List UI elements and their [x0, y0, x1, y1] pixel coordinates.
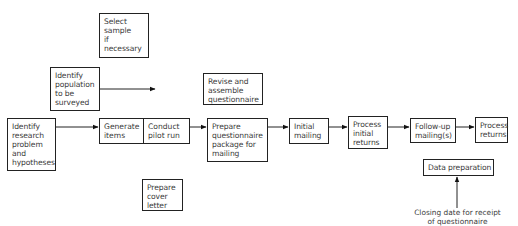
- box-initial-mailing: Initial mailing: [289, 118, 329, 144]
- connector-layer: [0, 0, 518, 226]
- box-generate-and-pilot: Generate items Conduct pilot run: [99, 118, 190, 144]
- cell-conduct-pilot: Conduct pilot run: [143, 119, 189, 143]
- box-select-sample: Select sample if necessary: [99, 13, 149, 58]
- box-identify-research: Identify research problem and hypotheses: [7, 118, 56, 171]
- box-follow-up-mailing: Follow-up mailing(s): [410, 118, 456, 143]
- box-data-preparation: Data preparation: [423, 159, 494, 176]
- box-prepare-cover-letter: Prepare cover letter: [142, 179, 183, 211]
- cell-generate-items: Generate items: [100, 119, 143, 143]
- box-process-returns: Process returns: [475, 117, 508, 143]
- box-identify-population: Identify population to be surveyed: [50, 67, 100, 111]
- box-revise-assemble: Revise and assemble questionnaire: [203, 73, 263, 105]
- box-process-initial-returns: Process initial returns: [348, 116, 388, 149]
- box-prepare-package: Prepare questionnaire package for mailin…: [207, 118, 268, 162]
- caption-closing-date: Closing date for receipt of questionnair…: [405, 208, 510, 226]
